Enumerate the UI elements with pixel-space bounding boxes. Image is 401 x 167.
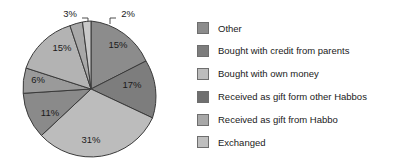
legend-label-bought-with-own-money: Bought with own money xyxy=(218,69,319,79)
pie-chart-svg: 15% 17% 31% 11% 6% 15% 3% 2% xyxy=(0,0,196,167)
leader-line-2pct xyxy=(110,18,116,24)
pie-label-bought-with-own-money: 31% xyxy=(81,134,101,145)
legend-item-bought-with-own-money[interactable]: Bought with own money xyxy=(197,63,401,86)
legend-item-received-as-gift-from-habbo[interactable]: Received as gift from Habbo xyxy=(197,108,401,131)
legend-swatch-icon-bought-with-own-money xyxy=(197,68,209,80)
pie-chart-plot-area: 15% 17% 31% 11% 6% 15% 3% 2% xyxy=(0,0,196,167)
legend-label-received-as-gift-from-habbo: Received as gift from Habbo xyxy=(218,115,338,125)
legend-item-other[interactable]: Other xyxy=(197,17,401,40)
pie-callout-label-3-percent: 3% xyxy=(63,8,77,19)
pie-label-received-as-gift-form-other-habbos: 11% xyxy=(41,107,60,118)
legend-swatch-icon-bought-with-credit-from-parents xyxy=(197,45,209,57)
pie-callout-label-2-percent: 2% xyxy=(121,8,135,19)
legend-label-bought-with-credit-from-parents: Bought with credit from parents xyxy=(218,46,349,56)
legend-swatch-icon-other xyxy=(197,22,209,34)
legend-swatch-icon-received-as-gift-form-other-habbos xyxy=(197,91,209,103)
legend-swatch-icon-received-as-gift-from-habbo xyxy=(197,114,209,126)
pie-label-received-as-gift-from-habbo: 6% xyxy=(31,74,45,85)
pie-label-other: 15% xyxy=(108,39,128,50)
legend-item-received-as-gift-form-other-habbos[interactable]: Received as gift form other Habbos xyxy=(197,85,401,108)
legend-item-bought-with-credit-from-parents[interactable]: Bought with credit from parents xyxy=(197,40,401,63)
legend-label-other: Other xyxy=(218,24,242,34)
legend-label-received-as-gift-form-other-habbos: Received as gift form other Habbos xyxy=(218,92,367,102)
legend-label-exchanged: Exchanged xyxy=(218,138,266,148)
pie-label-bought-with-credit-from-parents: 17% xyxy=(122,79,142,90)
pie-chart-figure: 15% 17% 31% 11% 6% 15% 3% 2% Other Bough… xyxy=(0,0,401,167)
legend-item-exchanged[interactable]: Exchanged xyxy=(197,131,401,154)
chart-legend: Other Bought with credit from parents Bo… xyxy=(197,17,401,157)
legend-swatch-icon-exchanged xyxy=(197,136,209,148)
pie-label-exchanged: 15% xyxy=(52,42,72,53)
